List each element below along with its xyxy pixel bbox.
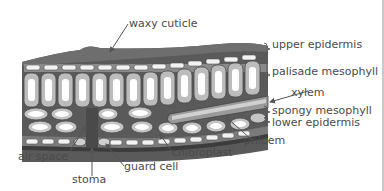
leaf-cross-section-svg: waxy cuticle upper epidermis palisade me… xyxy=(0,0,384,191)
label-upper-epidermis: upper epidermis xyxy=(272,38,362,51)
label-air-space: air space xyxy=(18,150,68,163)
label-chloroplast: chloroplast xyxy=(172,146,233,159)
label-stoma: stoma xyxy=(72,173,106,186)
label-phloem: phloem xyxy=(244,134,285,147)
label-lower-epidermis: lower epidermis xyxy=(272,116,360,129)
label-guard-cell: guard cell xyxy=(124,160,178,173)
label-xylem: xylem xyxy=(291,86,325,99)
label-waxy-cuticle: waxy cuticle xyxy=(129,17,198,30)
leaf-diagram: waxy cuticle upper epidermis palisade me… xyxy=(0,0,384,191)
label-palisade-mesophyll: palisade mesophyll xyxy=(272,65,378,78)
